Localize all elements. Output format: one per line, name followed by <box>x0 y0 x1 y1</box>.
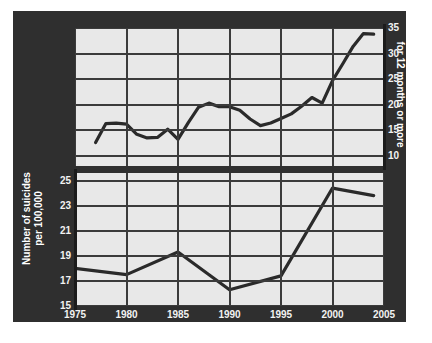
x-axis-tick-label: 1995 <box>263 310 299 320</box>
y-axis-tick-label: 30 <box>388 49 410 59</box>
axis-spine <box>383 24 386 170</box>
y-axis-label-right: Percent of total unemployed for 12 month… <box>395 20 418 170</box>
y-axis-tick-label: 20 <box>388 100 410 110</box>
gridline-vertical <box>229 173 231 306</box>
figure: Number of suicides per 100,000 Percent o… <box>0 0 432 343</box>
y-axis-tick-label: 25 <box>388 74 410 84</box>
y-axis-label-left-line2: per 100,000 <box>32 171 44 267</box>
y-axis-label-right-line1: Percent of total unemployed <box>406 20 418 170</box>
x-axis-tick-label: 1975 <box>57 310 93 320</box>
gridline-vertical <box>126 28 128 166</box>
gridline-vertical <box>75 28 76 166</box>
y-axis-tick-label: 15 <box>388 125 410 135</box>
gridline-vertical <box>280 28 282 166</box>
x-axis-tick-label: 2000 <box>315 310 351 320</box>
gridline-vertical <box>126 173 128 306</box>
axis-spine <box>74 169 77 310</box>
y-axis-tick-label: 35 <box>388 23 410 33</box>
y-axis-tick-label: 17 <box>49 276 71 286</box>
gridline-vertical <box>177 28 179 166</box>
chart-panel: Number of suicides per 100,000 Percent o… <box>13 11 406 322</box>
gridline-vertical <box>229 28 231 166</box>
y-axis-tick-label: 19 <box>49 251 71 261</box>
y-axis-tick-label: 10 <box>388 151 410 161</box>
y-axis-label-right-line2: for 12 months or more <box>395 20 407 170</box>
y-axis-label-left-line1: Number of suicides <box>21 171 33 267</box>
y-axis-label-left: Number of suicides per 100,000 <box>21 171 44 267</box>
x-axis-label: Year <box>75 325 384 337</box>
x-axis-tick-label: 1985 <box>160 310 196 320</box>
unemployment-plot-area <box>75 28 384 166</box>
gridline-vertical <box>332 173 334 306</box>
y-axis-tick-label: 25 <box>49 176 71 186</box>
suicides-plot-area <box>75 173 384 306</box>
gridline-vertical <box>332 28 334 166</box>
x-axis-tick-label: 1990 <box>212 310 248 320</box>
gridline-vertical <box>177 173 179 306</box>
y-axis-tick-label: 21 <box>49 226 71 236</box>
x-axis-tick-label: 1980 <box>109 310 145 320</box>
gridline-vertical <box>280 173 282 306</box>
y-axis-tick-label: 23 <box>49 201 71 211</box>
x-axis-tick-label: 2005 <box>366 310 402 320</box>
gridline-vertical <box>383 173 384 306</box>
